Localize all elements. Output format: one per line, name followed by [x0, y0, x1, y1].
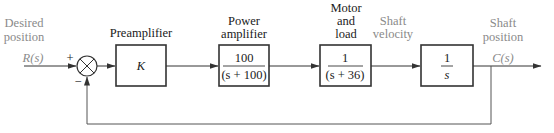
power-amp-denominator: (s + 100): [221, 68, 266, 82]
power-amp-title-line1: Power: [228, 14, 261, 28]
minus-sign: −: [74, 75, 81, 89]
output-label-line1: Shaft: [490, 16, 517, 30]
input-signal-label: R(s): [22, 51, 44, 65]
preamp-gain: K: [136, 59, 146, 73]
motor-title-line3: load: [335, 27, 357, 41]
motor-title-line2: and: [337, 14, 356, 28]
integrator-numerator: 1: [444, 51, 450, 65]
velocity-label-line1: Shaft: [380, 14, 407, 28]
power-amp-numerator: 100: [235, 51, 254, 65]
plus-sign: +: [66, 51, 73, 65]
integrator-denominator: s: [445, 68, 450, 82]
velocity-label-line2: velocity: [373, 27, 414, 41]
input-label-line2: position: [4, 30, 45, 44]
block-diagram: Desired position R(s) + − Preamplifier K…: [0, 0, 554, 133]
motor-denominator: (s + 36): [326, 68, 365, 82]
input-label-line1: Desired: [5, 16, 45, 30]
summing-junction: [77, 56, 97, 76]
motor-numerator: 1: [342, 51, 348, 65]
output-label-line2: position: [483, 30, 524, 44]
power-amp-title-line2: amplifier: [221, 27, 268, 41]
motor-title-line1: Motor: [330, 1, 362, 15]
output-signal-label: C(s): [492, 51, 514, 65]
preamp-title: Preamplifier: [110, 26, 173, 40]
